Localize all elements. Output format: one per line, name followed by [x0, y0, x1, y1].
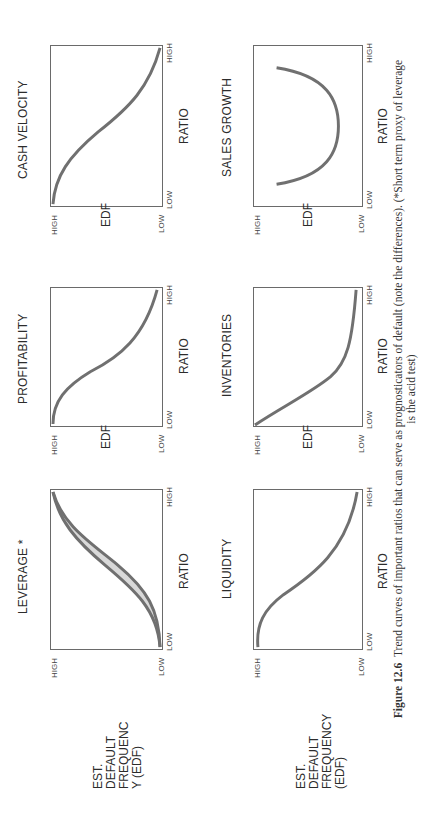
liquidity-curve: [254, 490, 362, 649]
y-tick-high: HIGH: [50, 658, 59, 678]
x-tick-low: LOW: [165, 633, 174, 651]
x-axis-label: RATIO: [177, 108, 191, 144]
panel-title: LIQUIDITY: [220, 539, 234, 599]
x-tick-low: LOW: [365, 411, 374, 429]
y-tick-low: LOW: [157, 435, 166, 453]
x-axis-label: RATIO: [376, 108, 390, 144]
panel-title: SALES GROWTH: [220, 78, 234, 177]
y-tick-low: LOW: [357, 215, 366, 233]
x-tick-high: HIGH: [165, 285, 174, 305]
y-axis-label-line1: EST. DEFAULT: [92, 722, 118, 789]
plot-area: [50, 45, 163, 207]
y-axis-label: EDF: [100, 425, 113, 449]
leverage-curves: [51, 490, 162, 649]
figure-caption: Figure 12.6 Trend curves of important ra…: [392, 39, 418, 739]
y-tick-low: LOW: [157, 215, 166, 233]
x-tick-low: LOW: [365, 191, 374, 209]
plot-area: [50, 287, 163, 427]
panel-title: INVENTORIES: [220, 314, 234, 397]
plot-area: [50, 489, 163, 650]
x-axis-label: RATIO: [376, 553, 390, 589]
panel-title: LEVERAGE *: [16, 539, 30, 614]
caption-line-1: Figure 12.6 Trend curves of important ra…: [392, 39, 405, 739]
y-tick-high: HIGH: [50, 215, 59, 235]
y-tick-high: HIGH: [253, 435, 262, 455]
figure-label: Figure 12.6: [392, 663, 404, 718]
x-axis-label: RATIO: [177, 338, 191, 374]
x-tick-low: LOW: [365, 633, 374, 651]
figure-page: LEVERAGE * LOW HIGH LOW HIGH RATIO EST. …: [0, 0, 436, 829]
caption-text: Trend curves of important ratios that ca…: [392, 60, 404, 657]
x-tick-high: HIGH: [365, 285, 374, 305]
x-tick-high: HIGH: [365, 43, 374, 63]
y-axis-label: EST. DEFAULT FREQUENC Y (EDF): [92, 722, 144, 789]
profitability-curve: [51, 288, 162, 426]
panel-title: CASH VELOCITY: [16, 80, 30, 179]
y-tick-low: LOW: [357, 435, 366, 453]
plot-area: [253, 287, 363, 427]
x-axis-label: RATIO: [177, 553, 191, 589]
y-axis-label: EST. DEFAULT FREQUENCY (EDF): [295, 714, 347, 789]
x-tick-low: LOW: [165, 411, 174, 429]
y-tick-high: HIGH: [253, 658, 262, 678]
x-tick-high: HIGH: [165, 43, 174, 63]
inventories-curve: [254, 288, 362, 426]
plot-area: [253, 45, 363, 207]
panel-title: PROFITABILITY: [16, 314, 30, 404]
cash-velocity-curve: [51, 46, 162, 206]
sales-growth-curve: [254, 46, 362, 206]
y-axis-label: EDF: [302, 203, 315, 227]
x-tick-low: LOW: [165, 191, 174, 209]
y-axis-label: EDF: [302, 425, 315, 449]
caption-line-2: is the acid test): [405, 39, 418, 739]
y-axis-label-line2: FREQUENC Y (EDF): [118, 722, 144, 789]
y-tick-high: HIGH: [50, 435, 59, 455]
plot-area: [253, 489, 363, 650]
y-tick-low: LOW: [357, 658, 366, 676]
x-axis-label: RATIO: [376, 338, 390, 374]
y-tick-low: LOW: [157, 658, 166, 676]
y-axis-label-line1: EST. DEFAULT: [295, 714, 321, 789]
y-axis-label-line2: FREQUENCY (EDF): [321, 714, 347, 789]
x-tick-high: HIGH: [365, 487, 374, 507]
y-axis-label: EDF: [100, 203, 113, 227]
x-tick-high: HIGH: [165, 487, 174, 507]
y-tick-high: HIGH: [253, 215, 262, 235]
